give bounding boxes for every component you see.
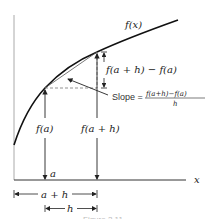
secant-line xyxy=(45,52,97,88)
fa-label: f(a) xyxy=(35,123,54,134)
slope-pointer xyxy=(68,79,108,95)
dim-h-label: h xyxy=(67,203,73,214)
slope-prefix: Slope = xyxy=(112,92,143,102)
figure-caption: Figure 2.11 xyxy=(83,215,123,219)
point-a-label: a xyxy=(50,168,56,179)
slope-denominator: h xyxy=(173,100,178,108)
rise-label: f(a + h) − f(a) xyxy=(105,64,177,75)
curve-label: f(x) xyxy=(124,19,142,30)
secant-slope-diagram: x f(x) f(a + h) − f(a) Slope = f(a+h)−f(… xyxy=(0,0,214,219)
slope-numerator: f(a+h)−f(a) xyxy=(145,90,187,98)
x-axis-label: x xyxy=(194,174,200,185)
dim-a-plus-h-label: a + h xyxy=(41,189,68,200)
fah-label: f(a + h) xyxy=(80,123,120,134)
